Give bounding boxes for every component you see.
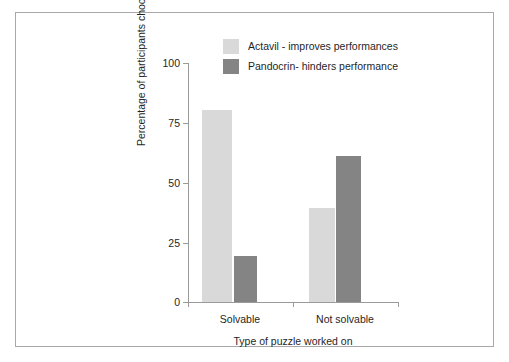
y-tick-100 — [183, 63, 188, 64]
bar-notsolvable-actavil — [309, 208, 335, 302]
chart-plot-area: Actavil - improves performances Pandocri… — [173, 51, 503, 341]
figure-frame: Actavil - improves performances Pandocri… — [15, 12, 494, 347]
legend-swatch-pandocrin — [223, 59, 239, 74]
y-tick-25 — [183, 243, 188, 244]
legend-label-actavil: Actavil - improves performances — [248, 40, 398, 52]
y-tick-label-50: 50 — [140, 178, 180, 188]
y-tick-label-50-wrap: 50 — [133, 178, 180, 188]
x-tick-middle — [293, 302, 294, 307]
bar-solvable-pandocrin — [234, 256, 257, 302]
y-axis-line — [188, 63, 189, 302]
bar-solvable-actavil — [202, 110, 232, 302]
y-tick-75 — [183, 123, 188, 124]
legend-label-pandocrin: Pandocrin- hinders performance — [248, 60, 398, 72]
y-tick-label-0: 0 — [140, 297, 180, 307]
x-category-label-solvable: Solvable — [185, 313, 295, 325]
x-axis-title: Type of puzzle worked on — [188, 335, 398, 347]
y-tick-label-25: 25 — [140, 238, 180, 248]
y-tick-label-0-wrap: 0 — [133, 297, 180, 307]
legend-swatch-actavil — [223, 39, 239, 54]
y-tick-50 — [183, 183, 188, 184]
bar-notsolvable-pandocrin — [336, 156, 361, 302]
x-category-label-not-solvable: Not solvable — [290, 313, 400, 325]
y-tick-label-25-wrap: 25 — [133, 238, 180, 248]
x-tick-left — [188, 302, 189, 307]
y-axis-title: Percentage of participants choosing each… — [135, 0, 147, 146]
x-tick-right — [398, 302, 399, 307]
